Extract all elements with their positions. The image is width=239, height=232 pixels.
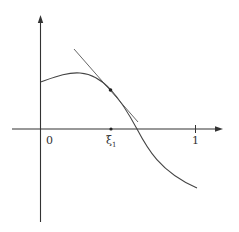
function-curve: [41, 73, 198, 188]
xi-subscript: 1: [112, 141, 116, 149]
xi-axis-point: [109, 127, 112, 130]
x-axis-arrow-icon: [215, 126, 223, 131]
plot-area: [0, 0, 239, 232]
y-axis-arrow-icon: [38, 15, 43, 23]
origin-label: 0: [46, 135, 53, 146]
one-label: 1: [192, 135, 199, 146]
diagram-canvas: 0 ξ1 1: [0, 0, 239, 232]
xi1-label: ξ1: [106, 135, 117, 149]
tangent-point: [109, 88, 113, 92]
